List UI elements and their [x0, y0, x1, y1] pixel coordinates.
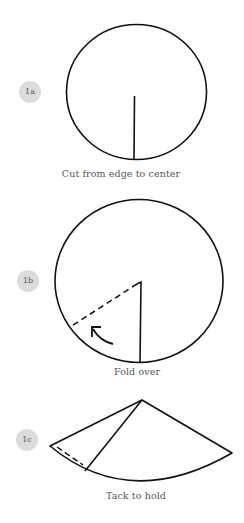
cut-line-1b	[137, 282, 141, 362]
step-badge-1b: 1b	[17, 270, 39, 292]
arrowhead-icon	[92, 327, 101, 337]
step-1a-figure	[67, 25, 207, 160]
cone-outline	[50, 400, 232, 481]
paper-circle-1a	[67, 25, 207, 160]
tack-dashed-line	[57, 447, 83, 465]
step-badge-1a: 1a	[19, 81, 41, 103]
step-caption-1c: Tack to hold	[14, 490, 244, 501]
curved-arrow-icon	[93, 329, 113, 344]
cone-fold-edge	[85, 400, 142, 471]
step-1b-figure	[55, 200, 223, 363]
paper-circle-1b	[55, 200, 223, 363]
cut-line-1a	[134, 96, 135, 160]
step-badge-1c: 1c	[16, 429, 38, 451]
step-caption-1b: Fold over	[15, 366, 244, 377]
step-caption-1a: Cut from edge to center	[0, 168, 243, 179]
fold-dashed-line	[70, 284, 137, 327]
step-1c-figure	[50, 400, 232, 481]
